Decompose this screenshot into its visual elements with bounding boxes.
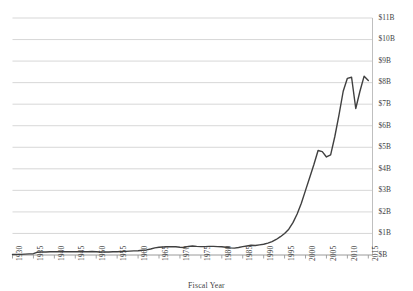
y-tick-label: $5B — [379, 143, 392, 151]
y-tick-label: $10B — [379, 35, 395, 43]
x-tick-label: 1950 — [99, 245, 107, 260]
y-tick-label: $8B — [379, 78, 392, 86]
x-tick-label: 1935 — [37, 245, 45, 260]
x-tick-label: 2015 — [372, 245, 380, 260]
x-tick-label: 1940 — [58, 245, 66, 260]
x-tick-label: 1955 — [120, 245, 128, 260]
y-tick-label: $3B — [379, 186, 392, 194]
x-tick-label: 2005 — [330, 245, 338, 260]
line-chart: $B$1B$2B$3B$4B$5B$6B$7B$8B$9B$10B$11B 19… — [0, 0, 413, 291]
x-tick-label: 1945 — [78, 245, 86, 260]
x-tick-label: 1995 — [288, 245, 296, 260]
gridlines-group — [13, 18, 373, 255]
x-tick-label: 1970 — [183, 245, 191, 260]
x-tick-label: 1980 — [225, 245, 233, 260]
y-tick-label: $9B — [379, 57, 392, 65]
y-tick-label: $7B — [379, 100, 392, 108]
x-axis-title: Fiscal Year — [0, 281, 413, 290]
y-tick-label: $2B — [379, 208, 392, 216]
x-tick-label: 1975 — [204, 245, 212, 260]
x-tick-label: 2000 — [309, 245, 317, 260]
y-tick-label: $6B — [379, 122, 392, 130]
x-tick-label: 2010 — [351, 245, 359, 260]
x-tick-label: 1990 — [267, 245, 275, 260]
y-tick-label: $4B — [379, 165, 392, 173]
data-series-line — [13, 76, 369, 254]
y-tick-label: $1B — [379, 229, 392, 237]
x-tick-label: 1985 — [246, 245, 254, 260]
y-tick-label: $11B — [379, 14, 395, 22]
x-tick-label: 1930 — [16, 245, 24, 260]
x-tick-label: 1960 — [141, 245, 149, 260]
x-tick-label: 1965 — [162, 245, 170, 260]
